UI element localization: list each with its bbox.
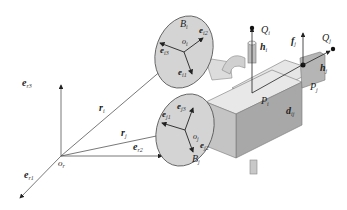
label-er3: er3 bbox=[22, 77, 32, 89]
joint-block bbox=[205, 41, 325, 174]
label-Qi: Qi bbox=[261, 24, 270, 36]
label-er2: er2 bbox=[133, 141, 143, 153]
label-hi: hi bbox=[260, 41, 268, 53]
label-ri: ri bbox=[99, 102, 105, 114]
label-fj: fj bbox=[291, 35, 296, 47]
label-rj: rj bbox=[121, 127, 127, 139]
label-hj: hj bbox=[320, 62, 328, 74]
joint-diagram: er3 er2 er1 or ri rj Bi oi ei2 ei3 ei1 e… bbox=[0, 0, 347, 210]
label-or: or bbox=[58, 158, 66, 169]
label-er1: er1 bbox=[24, 169, 34, 181]
label-Qj: Qj bbox=[322, 32, 331, 44]
